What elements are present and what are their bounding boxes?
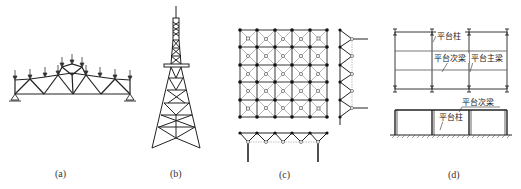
caption-c: (c) (279, 169, 290, 180)
support-icon (9, 94, 136, 101)
roof-truss-drawing (0, 0, 140, 189)
tower-drawing (140, 0, 230, 189)
panel-d-steel-platform: 平台柱 平台次梁 平台主梁 平台次梁 平台柱 (d) (380, 0, 521, 189)
caption-d: (d) (448, 169, 460, 180)
panel-c-space-grid: (c) (230, 0, 380, 189)
label-platform-secondary-beam-elevation: 平台次梁 (462, 97, 494, 107)
panel-a-roof-truss: (a) (0, 0, 140, 189)
platform-drawing: 平台柱 平台次梁 平台主梁 平台次梁 平台柱 (380, 0, 521, 189)
caption-b: (b) (170, 168, 182, 179)
space-grid-drawing (230, 0, 380, 189)
label-platform-main-beam: 平台主梁 (471, 53, 503, 63)
panel-b-lattice-tower: (b) (140, 0, 230, 189)
label-platform-column-plan: 平台柱 (437, 31, 461, 41)
label-platform-column-elevation: 平台柱 (439, 112, 463, 122)
label-platform-secondary-beam-plan: 平台次梁 (434, 53, 466, 63)
caption-a: (a) (55, 168, 66, 179)
